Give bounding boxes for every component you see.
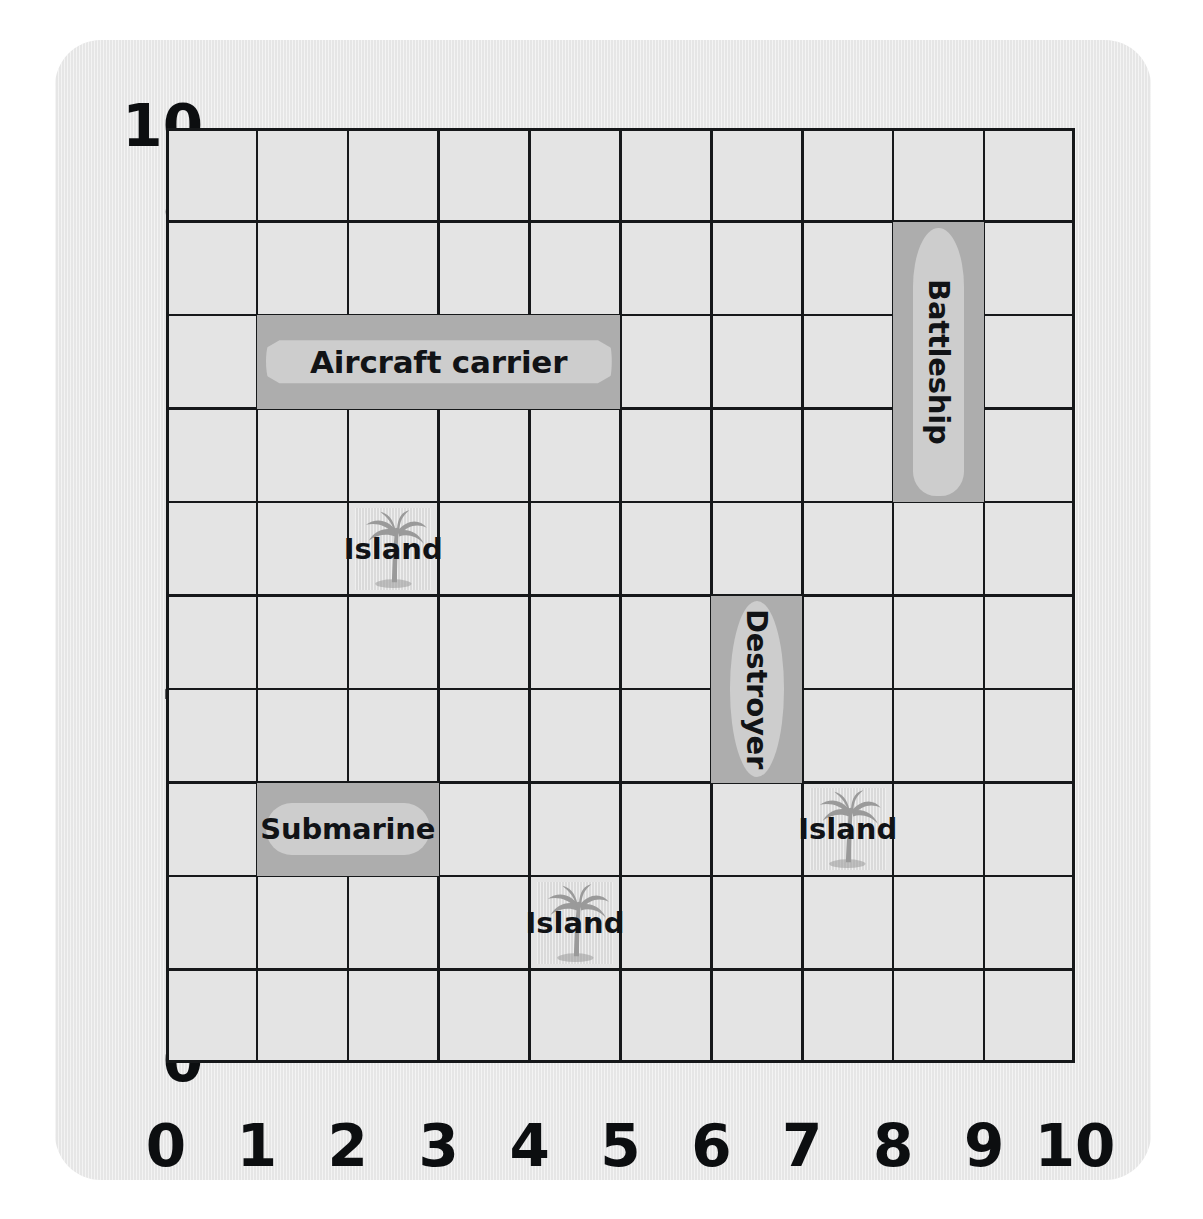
ship-label: Submarine: [257, 783, 439, 877]
island-marker[interactable]: Island: [348, 502, 439, 596]
x-axis-tick-4: 4: [485, 1115, 575, 1177]
island-marker[interactable]: Island: [802, 783, 893, 877]
ship-battleship[interactable]: Battleship: [893, 222, 984, 503]
x-axis-tick-10: 10: [1030, 1115, 1120, 1177]
island-marker[interactable]: Island: [530, 876, 621, 970]
x-axis-tick-1: 1: [212, 1115, 302, 1177]
board-items: Aircraft carrierBattleshipDestroyerSubma…: [166, 128, 1075, 1063]
island-label: Island: [802, 783, 893, 877]
island-label: Island: [348, 502, 439, 596]
ship-label: Aircraft carrier: [257, 315, 621, 409]
x-axis-tick-2: 2: [303, 1115, 393, 1177]
ship-submarine[interactable]: Submarine: [257, 783, 439, 877]
ship-label: Battleship: [893, 222, 984, 503]
x-axis-tick-7: 7: [757, 1115, 847, 1177]
island-label: Island: [530, 876, 621, 970]
x-axis-tick-3: 3: [394, 1115, 484, 1177]
grid-plot-area: Aircraft carrierBattleshipDestroyerSubma…: [166, 128, 1075, 1063]
ship-aircraft-carrier[interactable]: Aircraft carrier: [257, 315, 621, 409]
board-card: 012345678910 012345678910 Aircraft carri…: [55, 40, 1151, 1180]
ship-destroyer[interactable]: Destroyer: [711, 596, 802, 783]
ship-label: Destroyer: [711, 596, 802, 783]
x-axis-tick-8: 8: [848, 1115, 938, 1177]
x-axis-tick-0: 0: [121, 1115, 211, 1177]
x-axis-tick-9: 9: [939, 1115, 1029, 1177]
x-axis-tick-6: 6: [666, 1115, 756, 1177]
x-axis-tick-5: 5: [576, 1115, 666, 1177]
